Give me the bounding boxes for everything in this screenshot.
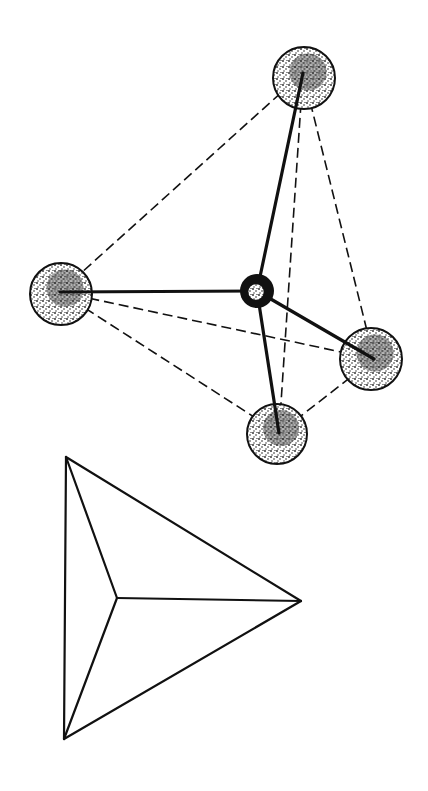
dashed-edge-top-left (60, 73, 303, 292)
projection-edge-center-bottom_left (64, 598, 117, 739)
atom-left (30, 263, 92, 325)
projection-edge-center-top_left (66, 457, 117, 598)
bond-left (60, 291, 257, 292)
projection-triangle (64, 457, 301, 739)
outer-atoms (30, 47, 402, 464)
bond-right (257, 291, 374, 359)
projection-edge-top_left-bottom_left (64, 457, 66, 739)
dashed-edge-left-bottom (60, 292, 279, 433)
dashed-edge-left-right (60, 292, 374, 359)
bonds (60, 73, 374, 433)
tetrahedron-edges (60, 73, 374, 433)
atom-top (273, 47, 335, 109)
projection-edge-top_left-right (66, 457, 301, 601)
dashed-edge-top-right (303, 73, 374, 359)
projection-edge-center-right (117, 598, 301, 601)
tetrahedron-diagram (0, 0, 428, 791)
projection-edge-bottom_left-right (64, 601, 301, 739)
central-atom (240, 274, 274, 308)
